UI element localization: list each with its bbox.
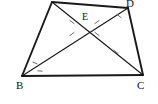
side-AD [52, 2, 128, 8]
tick-dc-upper [117, 14, 121, 17]
angle-b-upper [33, 62, 37, 64]
vertex-label-c: C [137, 80, 144, 91]
side-CB [22, 75, 143, 76]
congruence-tick-marks [70, 14, 121, 53]
tick-ed [95, 20, 99, 23]
tick-eb [70, 32, 74, 35]
vertex-label-b: B [16, 80, 23, 91]
geometry-canvas [0, 0, 158, 104]
diagonal-BD [22, 8, 128, 76]
geometry-figure: B C D E [0, 0, 158, 104]
vertex-label-e: E [82, 12, 88, 22]
side-BA [22, 2, 52, 76]
tick-ec [95, 32, 99, 35]
vertex-label-d: D [126, 0, 134, 9]
tick-ea [70, 20, 74, 23]
